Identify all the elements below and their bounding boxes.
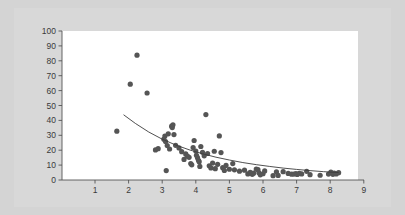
scatter-chart: 0102030405060708090100123456789 — [0, 0, 405, 215]
x-tick-label: 8 — [328, 185, 333, 195]
data-point — [156, 146, 161, 151]
y-tick-label: 80 — [47, 56, 57, 66]
y-tick-label: 90 — [47, 41, 57, 51]
data-point — [170, 122, 175, 127]
data-point — [114, 129, 119, 134]
x-tick-label: 4 — [193, 185, 198, 195]
data-point — [208, 165, 213, 170]
x-tick-label: 3 — [160, 185, 165, 195]
data-point — [217, 133, 222, 138]
data-point — [134, 53, 139, 58]
data-point — [186, 155, 191, 160]
data-point — [189, 162, 194, 167]
data-point — [215, 162, 220, 167]
data-point — [307, 172, 312, 177]
data-point — [299, 171, 304, 176]
data-point — [210, 160, 215, 165]
data-point — [212, 149, 217, 154]
data-point — [197, 159, 202, 164]
data-point — [167, 146, 172, 151]
data-point — [166, 131, 171, 136]
data-point — [281, 169, 286, 174]
data-point — [144, 90, 149, 95]
x-tick-label: 7 — [294, 185, 299, 195]
y-tick-label: 20 — [47, 145, 57, 155]
data-point — [197, 164, 202, 169]
y-tick-label: 50 — [47, 101, 57, 111]
x-tick-label: 1 — [93, 185, 98, 195]
data-point — [227, 167, 232, 172]
y-tick-label: 30 — [47, 130, 57, 140]
plot-area — [62, 31, 358, 180]
y-tick-label: 100 — [42, 26, 56, 36]
data-point — [203, 112, 208, 117]
data-point — [318, 173, 323, 178]
data-point — [171, 132, 176, 137]
x-tick-label: 5 — [227, 185, 232, 195]
data-point — [262, 168, 267, 173]
x-tick-label: 2 — [126, 185, 131, 195]
data-point — [192, 138, 197, 143]
data-point — [198, 144, 203, 149]
data-point — [222, 168, 227, 173]
x-tick-label: 9 — [361, 185, 366, 195]
chart-screenshot: 0102030405060708090100123456789 — [0, 0, 405, 215]
y-tick-label: 70 — [47, 71, 57, 81]
y-tick-label: 40 — [47, 115, 57, 125]
y-tick-label: 10 — [47, 160, 57, 170]
data-point — [230, 161, 235, 166]
y-tick-label: 0 — [51, 175, 56, 185]
data-point — [218, 150, 223, 155]
data-point — [128, 82, 133, 87]
data-point — [232, 167, 237, 172]
data-point — [164, 168, 169, 173]
data-point — [276, 173, 281, 178]
x-tick-label: 6 — [261, 185, 266, 195]
data-point — [237, 169, 242, 174]
y-tick-label: 60 — [47, 86, 57, 96]
